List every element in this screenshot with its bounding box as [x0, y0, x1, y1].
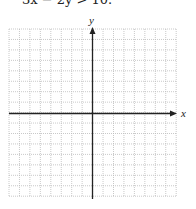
y-axis-arrow-icon: [90, 27, 96, 34]
coordinate-grid: x y: [0, 0, 196, 209]
y-axis-label: y: [88, 14, 94, 26]
x-axis-label: x: [180, 107, 186, 119]
